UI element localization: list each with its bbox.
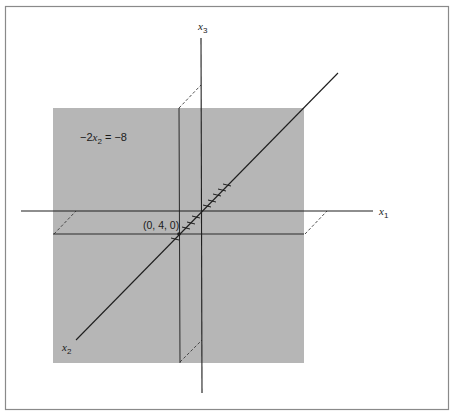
point-label: (0, 4, 0)	[143, 219, 179, 231]
diagram-figure: x3 x1 x2 −2x2 = −8 (0, 4, 0)	[0, 0, 453, 415]
point-0-4-0-marker	[177, 232, 181, 236]
